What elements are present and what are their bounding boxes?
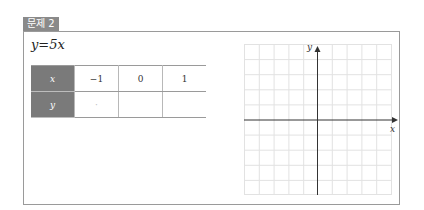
table-row-x: x −1 0 1 [31,66,206,92]
table-row-y: y · [31,92,206,118]
x-axis-label: x [390,124,395,134]
equation-operator: = [38,37,49,52]
cell-x-2: 0 [119,66,163,92]
equation: y=5x [31,37,65,52]
y-axis-label: y [307,42,312,52]
problem-label: 문제 2 [23,17,59,31]
y-axis-arrow-icon [315,46,321,52]
coordinate-grid[interactable]: x y [244,44,392,195]
cell-y-3[interactable] [163,92,207,118]
row-header-x: x [31,66,75,92]
equation-rhs: 5x [49,37,65,52]
row-header-y: y [31,92,75,118]
x-axis-arrow-icon [392,117,398,123]
value-table: x −1 0 1 y · [31,65,206,118]
cell-y-2[interactable] [119,92,163,118]
cell-y-1[interactable]: · [75,92,119,118]
axes [244,52,392,195]
cell-x-3: 1 [163,66,207,92]
grid-svg [244,44,404,195]
cell-x-1: −1 [75,66,119,92]
